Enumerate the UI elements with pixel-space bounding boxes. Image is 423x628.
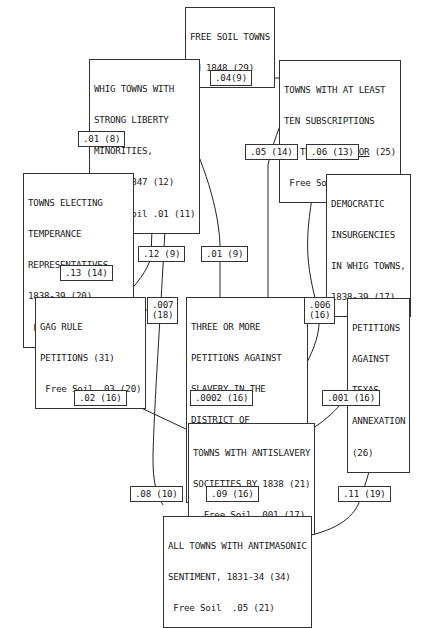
edge-label-dc-texas: .006 (16) <box>304 297 335 324</box>
edge-label-antimasonic-texas: .11 (19) <box>338 486 391 502</box>
edge-label-antislavery-gag: .02 (16) <box>74 390 127 406</box>
node-text: IN WHIG TOWNS, <box>331 261 406 271</box>
edge-label-antimasonic-antislavery: .09 (16) <box>206 486 259 502</box>
node-text: INSURGENCIES <box>331 230 406 240</box>
node-text: GAG RULE <box>40 322 141 332</box>
node-text: STRONG LIBERTY <box>94 115 195 125</box>
node-text: TOWNS WITH AT LEAST <box>284 85 396 95</box>
edge-label-whig-liberator: .04(9) <box>210 70 252 86</box>
node-text: PETITIONS AGAINST <box>191 353 303 363</box>
node-text: TEMPERANCE <box>28 229 129 239</box>
edge-label-gag-whig: .12 (9) <box>138 246 185 262</box>
node-text: Free Soil .05 (21) <box>168 603 307 613</box>
node-antimasonic-sentiment: ALL TOWNS WITH ANTIMASONIC SENTIMENT, 18… <box>163 516 312 628</box>
node-democratic-insurgencies: DEMOCRATIC INSURGENCIES IN WHIG TOWNS, 1… <box>326 174 411 317</box>
node-text: (26) <box>352 448 405 458</box>
edge-label-antislavery-dc: .0002 (16) <box>190 390 253 406</box>
node-text: TOWNS WITH ANTISLAVERY <box>193 448 310 458</box>
node-texas-annexation: PETITIONS AGAINST TEXAS ANNEXATION (26) <box>347 298 410 473</box>
node-text: THREE OR MORE <box>191 322 303 332</box>
node-text: DEMOCRATIC <box>331 199 406 209</box>
edge-label-gag-dc: .007 (18) <box>147 297 178 324</box>
node-text: (25) <box>369 146 396 157</box>
node-text: SENTIMENT, 1831-34 (34) <box>168 572 307 582</box>
edge-label-antislavery-texas: .001 (16) <box>322 390 380 406</box>
node-text: PETITIONS <box>352 323 405 333</box>
edge-label-dc-liberator: .05 (14) <box>245 144 298 160</box>
node-text: ALL TOWNS WITH ANTIMASONIC <box>168 541 307 551</box>
edge-label-dc-whig: .01 (9) <box>201 246 248 262</box>
node-text: PETITIONS (31) <box>40 353 141 363</box>
node-text: TEN SUBSCRIPTIONS <box>284 116 396 126</box>
edge-label-gag-temperance: .13 (14) <box>60 265 113 281</box>
edge-label-antimasonic-whig: .08 (10) <box>130 486 183 502</box>
node-text: AGAINST <box>352 354 405 364</box>
node-text: MINORITIES, <box>94 146 195 156</box>
edge-label-temperance-whig: .01 (8) <box>78 131 125 147</box>
edge-label-antislavery-liberator: .06 (13) <box>306 144 359 160</box>
node-text: TOWNS ELECTING <box>28 198 129 208</box>
node-text: FREE SOIL TOWNS <box>190 32 270 42</box>
node-text: WHIG TOWNS WITH <box>94 84 195 94</box>
node-text: ANNEXATION <box>352 416 405 426</box>
